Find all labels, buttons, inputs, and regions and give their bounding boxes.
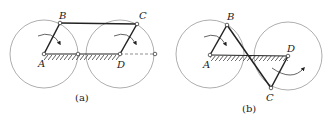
coupler-bc-a (60, 23, 137, 24)
joint-b (58, 21, 62, 25)
joint-mid (76, 52, 80, 56)
joint-a (208, 53, 212, 57)
label-d: D (286, 43, 295, 54)
panel-b: A B C D (b) (176, 11, 322, 114)
joint-b (225, 23, 229, 27)
panel-a: A B C D (a) (10, 10, 157, 103)
label-a: A (37, 58, 45, 69)
crank-dc-a (120, 24, 137, 54)
ground-hatch-a (44, 55, 120, 60)
label-b: B (226, 11, 234, 22)
label-a: A (202, 59, 210, 70)
caption-a: (a) (75, 92, 89, 103)
crank-ab-a (44, 23, 60, 54)
label-d: D (116, 59, 125, 70)
joint-d (286, 54, 290, 58)
joint-a (42, 52, 46, 56)
rotation-arrow-icon (114, 34, 136, 44)
crank-ab-b (210, 25, 227, 55)
rotation-arrow-icon (38, 34, 60, 44)
joint-end (153, 52, 157, 56)
joint-c (269, 86, 273, 90)
linkage-figure: A B C D (a) A B C D (b) (0, 0, 331, 121)
joint-c (135, 22, 139, 26)
label-c: C (266, 92, 274, 103)
joint-d (118, 52, 122, 56)
caption-b: (b) (242, 103, 256, 114)
rotation-arrow-icon (204, 35, 226, 45)
rotation-arrow-icon (272, 68, 304, 75)
label-c: C (139, 10, 147, 21)
label-b: B (58, 10, 66, 21)
